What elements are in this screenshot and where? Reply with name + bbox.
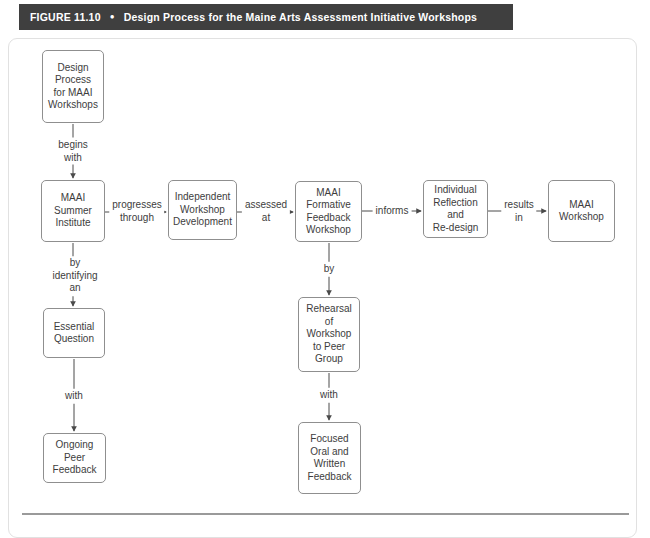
flow-node-independent-workshop-development: Independent Workshop Development bbox=[168, 180, 237, 240]
flow-node-rehearsal-workshop-peer-group: Rehearsal of Workshop to Peer Group bbox=[298, 297, 360, 372]
flow-node-design-process: Design Process for MAAI Workshops bbox=[42, 50, 104, 123]
edge-label-by: by bbox=[321, 262, 338, 277]
edge-label-by-identifying-an: by identifying an bbox=[49, 256, 100, 296]
flow-node-maai-workshop: MAAI Workshop bbox=[548, 180, 615, 242]
flow-node-maai-formative-feedback-workshop: MAAI Formative Feedback Workshop bbox=[295, 181, 362, 242]
bottom-rule bbox=[22, 513, 629, 515]
edge-label-results-in: results in bbox=[501, 198, 536, 225]
edge-label-begins-with: begins with bbox=[55, 138, 90, 165]
flow-node-essential-question: Essential Question bbox=[43, 308, 105, 358]
edge-label-progresses-through: progresses through bbox=[109, 198, 164, 225]
flow-node-focused-oral-written-feedback: Focused Oral and Written Feedback bbox=[298, 422, 361, 494]
edge-label-informs: informs bbox=[373, 204, 412, 219]
edge-label-assessed-at: assessed at bbox=[242, 198, 290, 225]
flow-node-maai-summer-institute: MAAI Summer Institute bbox=[41, 180, 105, 242]
edge-label-with-2: with bbox=[317, 388, 341, 403]
edge-label-with-1: with bbox=[62, 389, 86, 404]
flow-node-ongoing-peer-feedback: Ongoing Peer Feedback bbox=[43, 433, 106, 483]
flow-node-individual-reflection-redesign: Individual Reflection and Re-design bbox=[423, 180, 488, 238]
